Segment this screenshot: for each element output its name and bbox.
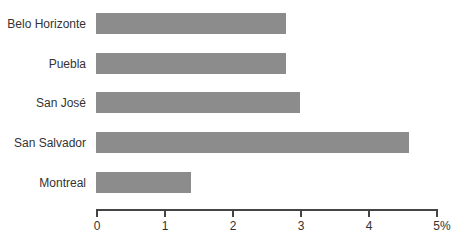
category-label: Puebla bbox=[49, 57, 86, 71]
category-label: San José bbox=[36, 96, 86, 110]
x-tick-label: 4 bbox=[366, 219, 373, 233]
category-label: Montreal bbox=[39, 176, 86, 190]
x-tick-label: 5% bbox=[433, 219, 450, 233]
x-tick-label: 2 bbox=[230, 219, 237, 233]
category-label: San Salvador bbox=[14, 136, 86, 150]
x-axis-line bbox=[96, 209, 437, 211]
category-label: Belo Horizonte bbox=[7, 17, 86, 31]
bar bbox=[96, 92, 300, 113]
x-tick bbox=[232, 209, 234, 217]
x-tick-label: 1 bbox=[162, 219, 169, 233]
bar bbox=[96, 53, 286, 74]
x-tick bbox=[436, 209, 438, 217]
x-tick bbox=[300, 209, 302, 217]
bar bbox=[96, 172, 191, 193]
x-tick bbox=[368, 209, 370, 217]
x-tick bbox=[164, 209, 166, 217]
x-tick bbox=[96, 209, 98, 217]
horizontal-bar-chart: Belo HorizontePueblaSan JoséSan Salvador… bbox=[0, 0, 463, 248]
bar bbox=[96, 132, 409, 153]
bar bbox=[96, 13, 286, 34]
x-tick-label: 0 bbox=[94, 219, 101, 233]
x-tick-label: 3 bbox=[298, 219, 305, 233]
